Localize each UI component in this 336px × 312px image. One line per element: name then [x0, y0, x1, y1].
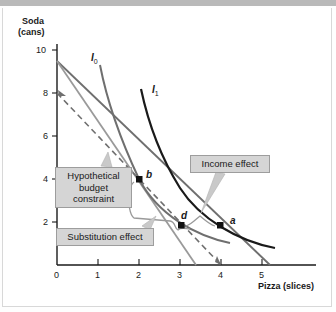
- y-tick-label-6: 6: [43, 131, 48, 141]
- x-tick-label-1: 1: [95, 270, 100, 280]
- curve-label-I1-sub: 1: [155, 90, 159, 97]
- callout-hypothetical-line3: constraint: [60, 193, 127, 205]
- callout-hypothetical-line2: budget: [60, 182, 127, 194]
- x-tick-label-2: 2: [136, 270, 141, 280]
- income-callout-pointer: [201, 172, 225, 213]
- y-axis-title-line2: (cans): [18, 27, 45, 37]
- callout-hypothetical-line1: Hypothetical: [60, 170, 127, 182]
- x-tick-label-4: 4: [218, 270, 223, 280]
- point-label-d: d: [181, 211, 187, 221]
- curve-label-I0: I0: [91, 53, 98, 67]
- callout-income-effect: Income effect: [190, 155, 270, 173]
- x-tick-label-5: 5: [259, 270, 264, 280]
- y-tick-label-4: 4: [43, 174, 48, 184]
- x-axis-title: Pizza (slices): [258, 281, 314, 291]
- data-point-b[interactable]: [136, 176, 143, 183]
- y-axis-title-line1: Soda: [22, 16, 44, 26]
- y-tick-label-8: 8: [43, 88, 48, 98]
- x-tick-label-0: 0: [54, 270, 59, 280]
- chart-svg: [0, 0, 336, 312]
- x-tick-label-3: 3: [177, 270, 182, 280]
- chart-page: Soda (cans) Pizza (slices) 10 8 6 4 2 0 …: [0, 0, 336, 312]
- data-point-d[interactable]: [178, 222, 185, 229]
- y-tick-label-10: 10: [36, 45, 46, 55]
- callout-substitution-effect: Substitution effect: [56, 228, 154, 246]
- curve-label-I1: I1: [152, 85, 159, 99]
- hypothetical-callout-pointer: [101, 152, 112, 167]
- hypothetical-line-arrowhead: [215, 256, 221, 265]
- curve-label-I0-sub: 0: [94, 58, 98, 65]
- hypothetical-line-axis-arrow: [58, 90, 66, 96]
- point-label-b: b: [146, 170, 152, 180]
- data-point-a[interactable]: [217, 222, 224, 229]
- y-tick-label-2: 2: [43, 217, 48, 227]
- point-label-a: a: [230, 216, 236, 226]
- callout-hypothetical-budget-constraint: Hypothetical budget constraint: [55, 167, 132, 208]
